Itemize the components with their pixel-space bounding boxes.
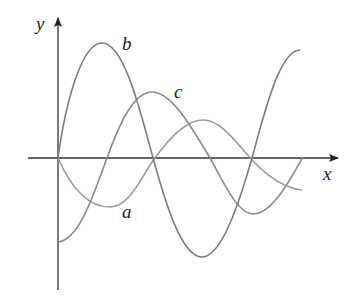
- curve-a-label: a: [122, 202, 132, 221]
- curve-a: [58, 120, 302, 207]
- graph-canvas: [0, 0, 357, 301]
- curve-c-label: c: [174, 82, 182, 101]
- curve-b-label: b: [122, 34, 132, 53]
- curve-c: [58, 92, 303, 242]
- x-axis-label: x: [323, 164, 331, 183]
- y-axis-label: y: [36, 14, 44, 33]
- curve-b: [58, 43, 300, 257]
